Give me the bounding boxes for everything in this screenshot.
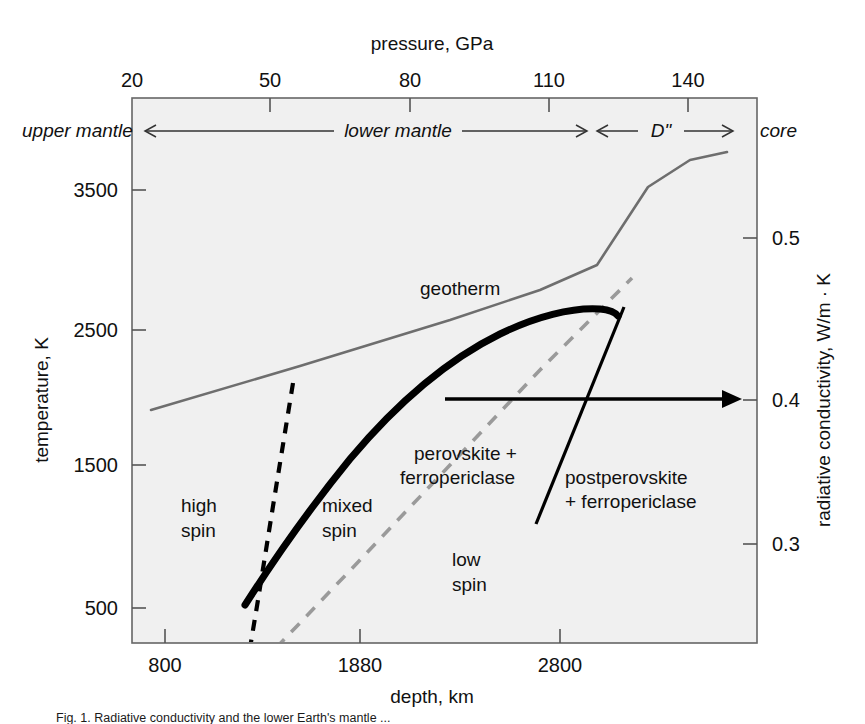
layer-label-core: core <box>760 120 797 141</box>
annotation-high-spin-line2: spin <box>181 520 216 541</box>
left-tick-label: 1500 <box>74 454 119 476</box>
right-tick-label: 0.4 <box>772 389 800 411</box>
left-tick-label: 2500 <box>74 319 119 341</box>
bottom-tick-label: 2800 <box>538 654 583 676</box>
annotation-mixed-spin-line1: mixed <box>322 495 373 516</box>
layer-label-lower-mantle: lower mantle <box>344 120 452 141</box>
annotation-postperovskite-line1: postperovskite <box>565 467 688 488</box>
annotation-low-spin-line2: spin <box>452 574 487 595</box>
left-axis-title: temperature, K <box>31 337 52 463</box>
figure-root: pressure, GPa 20 50 80 110 140 upper man… <box>0 0 865 724</box>
top-tick-label: 50 <box>259 69 281 91</box>
top-tick-label: 80 <box>399 69 421 91</box>
bottom-tick-label: 800 <box>148 654 181 676</box>
top-tick-label: 20 <box>121 69 143 91</box>
annotation-geotherm: geotherm <box>420 278 500 299</box>
right-tick-label: 0.5 <box>772 227 800 249</box>
left-tick-label: 3500 <box>74 179 119 201</box>
annotation-high-spin-line1: high <box>181 495 217 516</box>
figure-caption: Fig. 1. Radiative conductivity and the l… <box>56 711 391 724</box>
top-axis-title: pressure, GPa <box>371 33 494 54</box>
annotation-mixed-spin-line2: spin <box>322 520 357 541</box>
top-tick-label: 110 <box>533 69 565 91</box>
bottom-axis-title: depth, km <box>390 686 473 707</box>
annotation-perovskite-line2: ferropericlase <box>400 467 515 488</box>
annotation-low-spin-line1: low <box>452 549 481 570</box>
annotation-perovskite-line1: perovskite + <box>414 443 517 464</box>
layer-label-d-double-prime: D" <box>651 120 673 141</box>
layer-label-upper-mantle: upper mantle <box>22 120 133 141</box>
top-tick-label: 140 <box>671 69 704 91</box>
left-tick-label: 500 <box>85 597 118 619</box>
bottom-tick-label: 1880 <box>338 654 383 676</box>
right-axis-title: radiative conductivity, W/m · K <box>813 273 834 527</box>
right-tick-label: 0.3 <box>772 533 800 555</box>
annotation-postperovskite-line2: + ferropericlase <box>565 491 696 512</box>
chart-svg: pressure, GPa 20 50 80 110 140 upper man… <box>0 0 865 724</box>
